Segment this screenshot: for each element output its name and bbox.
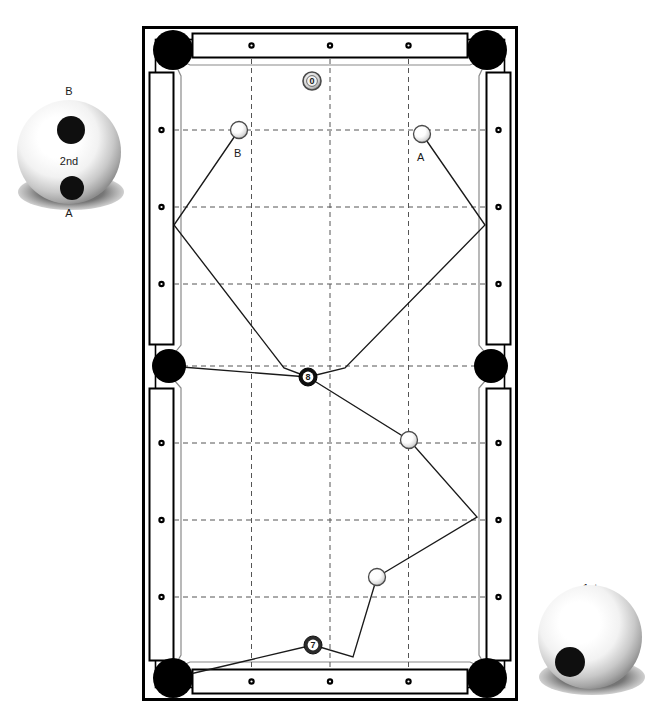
diamond-top-2 (327, 42, 333, 48)
table-ball-0[interactable]: 0 (303, 72, 321, 90)
diamond-left-6 (158, 594, 164, 600)
legend-second-top-label: B (65, 85, 72, 97)
legend-second-bottom-label: A (65, 207, 73, 219)
table-ball-0-number: 0 (309, 76, 314, 86)
diamond-right-6 (495, 594, 501, 600)
diamond-right-3 (495, 281, 501, 287)
table-ball-8[interactable]: 8 (299, 368, 317, 386)
diamond-left-3 (158, 281, 164, 287)
pocket-top-left[interactable] (153, 30, 193, 70)
legend-ball-second: B 2nd A (17, 85, 124, 219)
legend-second-contact-b (57, 116, 85, 144)
legend-first-ball (538, 585, 642, 689)
table-ball-7-number: 7 (310, 640, 315, 650)
diamond-bottom-2 (327, 678, 333, 684)
diamond-right-1 (495, 127, 501, 133)
diamond-right-2 (495, 204, 501, 210)
diamond-left-5 (158, 517, 164, 523)
rail-right-lower (487, 389, 511, 661)
diamond-right-4 (495, 440, 501, 446)
diamond-right-5 (495, 517, 501, 523)
table-ball-a[interactable] (414, 126, 431, 143)
pool-table-diagram: 0 B A 8 (0, 0, 657, 727)
pocket-middle-left[interactable] (152, 349, 186, 383)
table-ball-8-number: 8 (305, 372, 310, 382)
table-ball-low[interactable] (369, 569, 386, 586)
legend-first-contact (555, 647, 585, 677)
legend-second-order-label: 2nd (60, 155, 78, 167)
table-ball-b-label: B (234, 147, 241, 159)
legend-second-contact-a (60, 176, 84, 200)
diamond-top-1 (248, 42, 254, 48)
diamond-bottom-1 (248, 678, 254, 684)
diamond-top-3 (405, 42, 411, 48)
table-ball-mid[interactable] (401, 432, 418, 449)
rail-left-lower (150, 389, 174, 661)
table-ball-a-label: A (417, 151, 425, 163)
table-ball-b[interactable] (231, 122, 248, 139)
diamond-left-4 (158, 440, 164, 446)
pocket-bottom-left[interactable] (153, 658, 193, 698)
pocket-top-right[interactable] (467, 30, 507, 70)
table-ball-7[interactable]: 7 (304, 636, 322, 654)
table-frame (144, 28, 517, 700)
table-outer-border (144, 28, 517, 700)
diamond-left-2 (158, 204, 164, 210)
diagram-stage: 0 B A 8 (0, 0, 657, 727)
diamond-left-1 (158, 127, 164, 133)
legend-ball-first: 1st (538, 582, 645, 695)
pocket-middle-right[interactable] (474, 349, 508, 383)
pocket-bottom-right[interactable] (467, 658, 507, 698)
diamond-bottom-3 (405, 678, 411, 684)
